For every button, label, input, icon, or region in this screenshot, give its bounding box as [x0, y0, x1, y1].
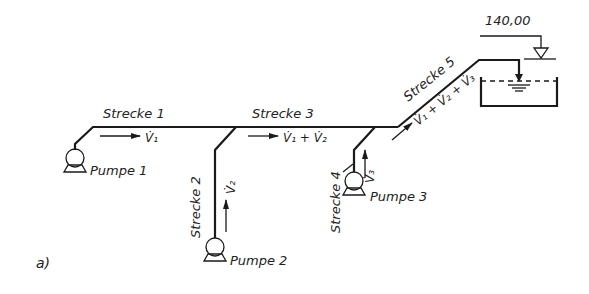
- pump-icon: [64, 149, 86, 172]
- pump-2-label: Pumpe 2: [230, 253, 287, 268]
- pipe-strecke-5: Strecke 5 V̇₁ + V̇₂ + V̇₃: [392, 54, 523, 140]
- strecke-1-flow: V̇₁: [145, 131, 158, 145]
- reservoir-tank-icon: [481, 77, 557, 106]
- pipe-strecke-4: Strecke 4 V̇₃: [328, 127, 377, 233]
- strecke-2-label: Strecke 2: [188, 176, 203, 238]
- figure-label: a): [36, 255, 50, 271]
- pump-1-label: Pumpe 1: [90, 163, 147, 178]
- strecke-3-flow: V̇₁ + V̇₂: [283, 131, 327, 145]
- elevation-value: 140,00: [485, 13, 531, 28]
- strecke-3-label: Strecke 3: [252, 106, 314, 121]
- strecke-4-flow: V̇₃: [363, 170, 377, 183]
- pump-2: Pumpe 2: [204, 238, 287, 268]
- pump-icon: [204, 238, 226, 261]
- strecke-4-label: Strecke 4: [328, 171, 343, 233]
- pipe-strecke-1: Strecke 1 V̇₁: [75, 106, 236, 150]
- pump-3-label: Pumpe 3: [370, 189, 427, 204]
- pump-icon: [343, 172, 365, 195]
- pipe-network-diagram: Strecke 1 V̇₁ Strecke 3 V̇₁ + V̇₂ Streck…: [0, 0, 589, 294]
- pipe-strecke-2: Strecke 2 V̇₂: [188, 127, 238, 238]
- strecke-2-flow: V̇₂: [224, 181, 238, 194]
- water-level-triangle-icon: [534, 48, 548, 58]
- pump-3: Pumpe 3: [343, 172, 427, 204]
- flow-arrow-icon: [392, 123, 412, 140]
- strecke-1-label: Strecke 1: [103, 106, 165, 121]
- branch-tick: [343, 164, 353, 172]
- elevation-marker: 140,00: [480, 13, 556, 59]
- pipe-strecke-3: Strecke 3 V̇₁ + V̇₂: [236, 106, 398, 145]
- pump-1: Pumpe 1: [64, 149, 147, 178]
